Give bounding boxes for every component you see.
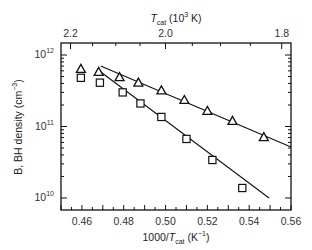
square-marker [77,74,84,81]
square-marker [119,89,126,96]
y-tick-label: 1011 [35,119,54,132]
x-tick-label: 0.46 [72,215,93,227]
triangle-marker [180,95,189,103]
triangle-marker [134,78,143,86]
x-tick-label: 0.50 [155,215,176,227]
y-tick-label: 1010 [35,190,55,203]
data-markers [76,64,268,191]
triangle-marker [115,73,124,81]
fit-lines [101,66,291,198]
svg-text:1000/Tcat (K−1): 1000/Tcat (K−1) [143,230,210,245]
top-tick-label: 1.8 [274,27,289,39]
x-tick-label: 0.54 [239,215,260,227]
top-tick-label: 2.0 [158,27,173,39]
y-tick-label: 1012 [35,47,55,60]
square-marker [137,100,144,107]
x-axis-ticks: 0.460.480.500.520.540.56 [61,205,301,227]
chart: Tcat (103 K) 2.22.01.8 101010111012 0.46… [0,0,312,250]
square-marker [183,135,190,142]
x-tick-label: 0.56 [281,215,302,227]
triangle-marker [76,64,85,72]
x-tick-label: 0.52 [197,215,218,227]
top-tick-label: 2.2 [63,27,78,39]
x-tick-label: 0.48 [114,215,135,227]
top-axis-ticks: 2.22.01.8 [63,27,289,49]
square-marker [158,113,165,120]
y-axis-ticks: 101010111012 [35,47,291,203]
square-marker [239,184,246,191]
triangle-marker [94,67,103,75]
x-axis-title: 1000/Tcat (K−1) [143,230,210,245]
svg-text:Tcat (103 K): Tcat (103 K) [150,11,201,26]
y-axis-title: B, BH density (cm−3) [11,79,24,175]
plot-frame [61,43,291,210]
square-marker [96,79,103,86]
square-marker [209,156,216,163]
top-axis-title: Tcat (103 K) [150,11,201,26]
svg-text:B, BH density (cm−3): B, BH density (cm−3) [11,79,24,175]
